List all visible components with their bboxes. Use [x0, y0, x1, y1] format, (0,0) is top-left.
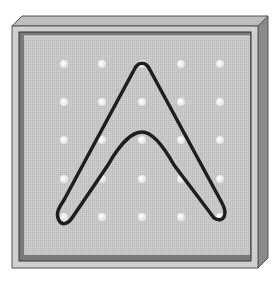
peg: [216, 60, 224, 68]
peg: [216, 98, 224, 106]
peg: [138, 175, 146, 183]
peg: [138, 213, 146, 221]
peg: [177, 60, 185, 68]
peg: [138, 98, 146, 106]
peg: [60, 98, 68, 106]
peg: [60, 136, 68, 144]
peg: [177, 98, 185, 106]
peg: [98, 60, 106, 68]
peg: [60, 60, 68, 68]
peg: [60, 175, 68, 183]
peg: [216, 175, 224, 183]
peg: [177, 136, 185, 144]
peg: [216, 136, 224, 144]
board-surface: [24, 36, 250, 255]
frame-right-side: [258, 16, 268, 268]
peg: [60, 213, 68, 221]
peg: [98, 213, 106, 221]
peg: [98, 98, 106, 106]
peg: [138, 136, 146, 144]
frame-top-bevel: [12, 16, 268, 26]
peg: [177, 213, 185, 221]
geoboard-figure: [0, 0, 275, 288]
